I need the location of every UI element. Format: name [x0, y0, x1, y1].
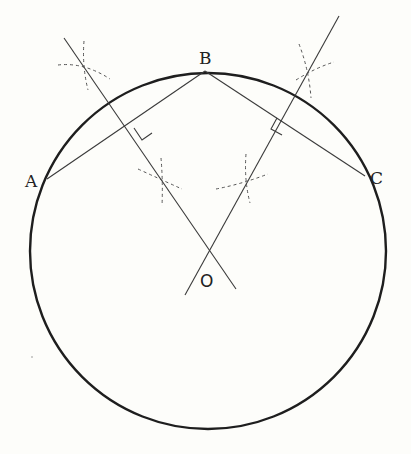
perpendicular-bisector-ab — [64, 38, 236, 289]
chord-bc — [205, 71, 365, 176]
label-b: B — [199, 48, 212, 68]
right-angle-mark-ab — [134, 128, 152, 140]
construction-arcs-ab-upper — [58, 41, 110, 90]
construction-arcs-bc-upper — [296, 44, 334, 98]
label-c: C — [370, 168, 383, 188]
label-a: A — [24, 171, 38, 191]
construction-arcs-ab-lower — [138, 158, 182, 206]
circumcircle — [30, 73, 386, 429]
speck-mark — [31, 356, 32, 357]
label-o: O — [200, 271, 213, 291]
geometry-diagram: A B C O — [0, 0, 411, 454]
construction-arcs-bc-lower — [216, 154, 268, 203]
chord-ab — [47, 71, 205, 179]
